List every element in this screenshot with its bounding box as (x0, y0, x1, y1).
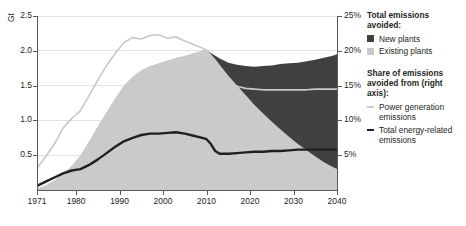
legend-item-existing-plants: Existing plants (367, 46, 464, 56)
x-axis-tick (207, 191, 208, 195)
legend-spacer (367, 59, 464, 68)
y-axis-right-tick-label: 20% (344, 46, 374, 55)
y-axis-right-tick-label: 5% (344, 150, 374, 159)
legend-label-existing-plants: Existing plants (379, 46, 464, 56)
legend-swatch-new-plants (367, 35, 374, 42)
y-axis-right-tick (338, 51, 342, 52)
legend-label-new-plants: New plants (379, 34, 464, 44)
y-axis-right-tick-label: 15% (344, 81, 374, 90)
y-axis-left-tick (33, 51, 37, 52)
x-axis-tick-label: 2030 (274, 197, 314, 206)
legend-label-power-generation: Power generation emissions (379, 102, 464, 123)
x-axis-tick-label: 1990 (100, 197, 140, 206)
x-axis-tick-label: 2010 (187, 197, 227, 206)
y-axis-right-tick (338, 86, 342, 87)
legend-group2-title: Share of emissions avoided from (right a… (367, 68, 464, 99)
x-axis-tick-label: 2000 (143, 197, 183, 206)
legend-line-power-generation (367, 106, 374, 108)
x-axis-tick (120, 191, 121, 195)
y-axis-right-tick (338, 16, 342, 17)
y-axis-left-tick (33, 16, 37, 17)
x-axis-tick-label: 1971 (17, 197, 57, 206)
y-axis-left (37, 16, 38, 191)
x-axis-tick (76, 191, 77, 195)
y-axis-right (337, 16, 338, 191)
x-axis-tick (337, 191, 338, 195)
legend-group1-title: Total emissions avoided: (367, 10, 464, 31)
y-axis-right-tick (338, 155, 342, 156)
legend-item-power-generation: Power generation emissions (367, 102, 464, 123)
x-axis-tick (250, 191, 251, 195)
legend-item-new-plants: New plants (367, 34, 464, 44)
y-axis-right-tick-label: 10% (344, 115, 374, 124)
legend-line-total-energy (367, 129, 374, 131)
x-axis-tick (37, 191, 38, 195)
x-axis-tick-label: 2020 (230, 197, 270, 206)
chart-canvas (37, 16, 337, 190)
y-axis-left-tick-label: 2.5 (4, 11, 32, 20)
y-axis-left-tick (33, 86, 37, 87)
plot-area (37, 16, 337, 190)
x-axis-tick-label: 2040 (317, 197, 357, 206)
legend-label-total-energy: Total energy-related emissions (379, 125, 464, 146)
y-axis-left-tick (33, 120, 37, 121)
y-axis-left-tick (33, 155, 37, 156)
chart-figure: Gt Total emissions avoided: New plants E… (0, 0, 466, 226)
legend-item-total-energy: Total energy-related emissions (367, 125, 464, 146)
y-axis-left-tick-label: 0.5 (4, 150, 32, 159)
x-axis-tick (163, 191, 164, 195)
y-axis-left-tick-label: 2.0 (4, 46, 32, 55)
y-axis-right-tick (338, 120, 342, 121)
x-axis-tick-label: 1980 (56, 197, 96, 206)
y-axis-left-tick-label: 1.0 (4, 115, 32, 124)
y-axis-right-tick-label: 25% (344, 11, 374, 20)
y-axis-left-tick-label: 1.5 (4, 81, 32, 90)
chart-legend: Total emissions avoided: New plants Exis… (367, 10, 464, 147)
x-axis-tick (294, 191, 295, 195)
